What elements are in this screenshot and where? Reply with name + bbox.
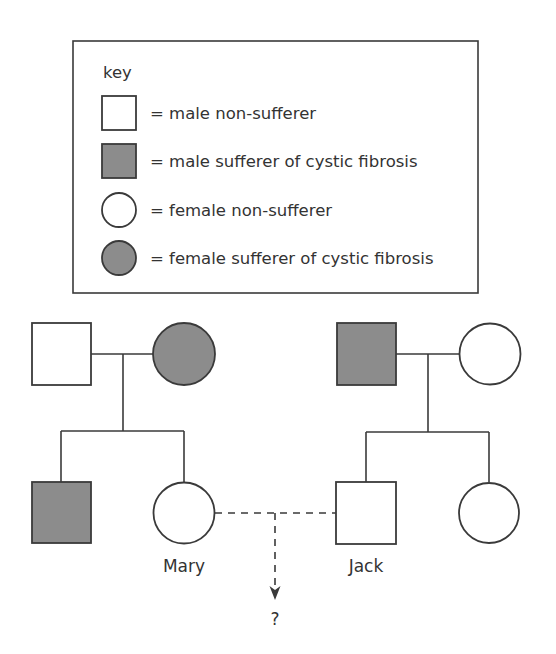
right-daughter-female-non-sufferer-icon [459,483,519,543]
key-male-sufferer-icon [102,144,136,178]
prospective-offspring: ? [215,513,336,629]
key-box: key = male non-sufferer = male sufferer … [73,41,478,293]
mary-female-non-sufferer-icon [154,483,215,544]
left-family: Mary [32,323,215,576]
left-son-male-sufferer-icon [32,482,91,543]
offspring-question-mark: ? [270,609,279,629]
pedigree-diagram: key = male non-sufferer = male sufferer … [0,0,556,654]
key-female-sufferer-icon [102,241,136,275]
right-family: Jack [336,323,521,576]
right-father-male-sufferer-icon [337,323,396,385]
jack-male-non-sufferer-icon [336,482,396,544]
key-label-male-non-sufferer: = male non-sufferer [150,104,316,123]
key-female-non-sufferer-icon [102,193,136,227]
jack-label: Jack [348,556,384,576]
left-father-male-non-sufferer-icon [32,323,91,385]
key-label-male-sufferer: = male sufferer of cystic fibrosis [150,152,418,171]
left-mother-female-sufferer-icon [153,323,215,385]
key-title: key [103,63,132,82]
right-mother-female-non-sufferer-icon [460,324,521,385]
mary-label: Mary [163,556,205,576]
arrow-down-icon [270,586,281,600]
key-male-non-sufferer-icon [102,96,136,130]
key-label-female-non-sufferer: = female non-sufferer [150,201,332,220]
key-label-female-sufferer: = female sufferer of cystic fibrosis [150,249,433,268]
